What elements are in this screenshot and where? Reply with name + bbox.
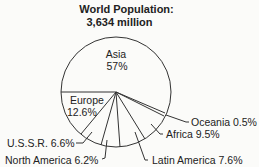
leader-north-america <box>102 140 107 159</box>
leader-ussr <box>76 132 92 143</box>
label-africa: Africa 9.5% <box>166 128 220 140</box>
label-oceania: Oceania 0.5% <box>191 116 257 128</box>
slice-divider-latin-north <box>116 92 120 147</box>
label-europe: Europe <box>70 94 104 106</box>
pie-chart: Asia 57% Europe 12.6% Oceania 0.5% Afric… <box>0 0 259 167</box>
label-asia-pct: 57% <box>106 60 127 72</box>
label-ussr: U.S.S.R. 6.6% <box>7 137 75 149</box>
leader-latin-america <box>135 132 148 160</box>
label-asia: Asia <box>106 48 127 60</box>
label-europe-pct: 12.6% <box>67 106 97 118</box>
leader-oceania <box>166 115 189 122</box>
label-latin-america: Latin America 7.6% <box>152 154 242 166</box>
label-north-america: North America 6.2% <box>5 154 98 166</box>
